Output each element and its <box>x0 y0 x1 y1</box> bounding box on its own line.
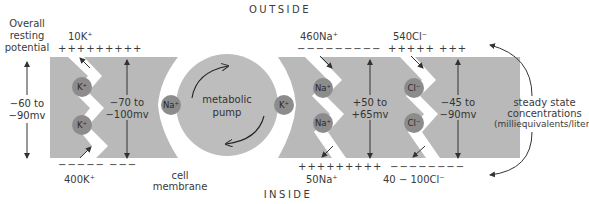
k-potential: −100mv <box>105 109 148 120</box>
steady-state-label: concentrations <box>500 108 589 119</box>
na-ion-label: Na⁺ <box>163 100 179 110</box>
outside-label: OUTSIDE <box>230 4 330 15</box>
metabolic-pump <box>170 48 284 162</box>
cl-inside-charge: −−−−−−−− <box>390 161 465 172</box>
overall-label: resting <box>0 30 54 41</box>
cl-potential: −45 to <box>441 97 475 108</box>
na-inside-concentration: 50Na⁺ <box>306 174 338 185</box>
overall-potential-value: −60 to <box>10 98 44 109</box>
k-inside-charge: −−−−− −−− <box>58 159 137 170</box>
na-outside-concentration: 460Na⁺ <box>300 31 338 42</box>
cl-ion-label: Cl⁻ <box>408 118 421 128</box>
right-membrane-block <box>278 57 520 158</box>
cell-membrane-label: cell <box>150 170 210 181</box>
cl-ion-label: Cl⁻ <box>408 83 421 93</box>
steady-state-label: steady state <box>500 97 589 108</box>
k-outside-charge: +++++++++ <box>58 43 142 54</box>
cl-potential: −90mv <box>440 109 477 120</box>
cell-membrane-label: membrane <box>150 181 210 192</box>
pump-label: metabolic <box>202 94 251 105</box>
na-inside-charge: +++++++++ <box>298 161 382 172</box>
na-ion-label: Na⁺ <box>315 83 331 93</box>
pump-label: pump <box>213 107 242 118</box>
k-ion-label: K⁺ <box>77 120 87 130</box>
overall-label: potential <box>0 42 54 53</box>
overall-label: Overall <box>0 18 54 29</box>
cl-outside-concentration: 540Cl⁻ <box>393 31 427 42</box>
k-potential: −70 to <box>110 97 144 108</box>
overall-potential-value: −90mv <box>9 110 46 121</box>
steady-state-label: (milliequivalents/liter) <box>494 119 589 130</box>
na-potential: +50 to <box>353 97 387 108</box>
inside-label: INSIDE <box>238 189 338 200</box>
k-ion-label: K⁺ <box>77 82 87 92</box>
k-ion-label: K⁺ <box>279 100 289 110</box>
k-outside-concentration: 10K⁺ <box>68 31 93 42</box>
cl-inside-concentration: 40 − 100Cl⁻ <box>383 174 445 185</box>
k-inside-concentration: 400K⁺ <box>64 174 95 185</box>
cl-outside-charge: +++++ +++ <box>388 43 467 54</box>
na-potential: +65mv <box>352 109 389 120</box>
na-outside-charge: −−−−−−−−− <box>297 43 381 54</box>
na-ion-label: Na⁺ <box>315 118 331 128</box>
